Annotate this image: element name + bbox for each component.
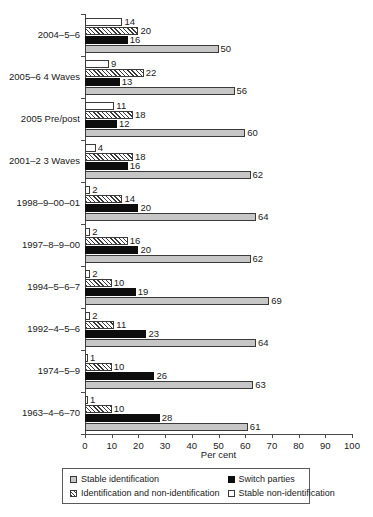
bar-group: 4181662 [85,144,352,179]
bar-value-label: 11 [114,320,126,330]
y-tick [81,350,85,351]
y-tick [81,98,85,99]
bar-value-label: 2 [90,311,97,321]
bar-row: 1 [85,396,352,404]
x-tick [352,434,353,438]
category-label: 2004–5–6 [0,29,80,40]
y-tick [81,392,85,393]
bar-value-label: 16 [128,35,141,45]
bar-row: 64 [85,339,352,347]
y-tick [81,140,85,141]
bar-row: 10 [85,405,352,413]
legend-label: Switch parties [239,474,295,484]
bar [85,339,256,347]
bar-value-label: 56 [235,86,248,96]
legend-swatch-icon [70,476,77,483]
category-label: 1992–4–5–6 [0,323,80,334]
category-label: 1998–9–00–01 [0,197,80,208]
bar-row: 62 [85,171,352,179]
bar-value-label: 64 [256,338,269,348]
bar [85,87,235,95]
bar-row: 19 [85,288,352,296]
bar [85,246,138,254]
bar-row: 50 [85,45,352,53]
x-tick [192,434,193,438]
bar-value-label: 9 [109,59,116,69]
bar-value-label: 4 [96,143,103,153]
legend-swatch-icon [70,490,77,497]
bar-group: 2101969 [85,270,352,305]
bar [85,204,138,212]
legend-label: Stable identification [81,474,159,484]
bar [85,69,144,77]
bar-row: 18 [85,153,352,161]
bar-row: 16 [85,36,352,44]
x-tick [112,434,113,438]
bar-value-label: 62 [251,254,264,264]
bar-value-label: 69 [269,296,282,306]
category-label: 1963–4–6–70 [0,407,80,418]
bar-group: 11181260 [85,102,352,137]
legend-swatch-icon [228,490,235,497]
bar [85,237,128,245]
y-tick [81,224,85,225]
bar [85,297,269,305]
bar [85,144,96,152]
bar-row: 20 [85,27,352,35]
bar-row: 13 [85,78,352,86]
bar [85,255,251,263]
bar [85,18,122,26]
bar-row: 64 [85,213,352,221]
bar-value-label: 19 [136,287,149,297]
bar-value-label: 50 [219,44,232,54]
bar [85,372,154,380]
bar-value-label: 63 [253,380,266,390]
bar-row: 20 [85,246,352,254]
bar-value-label: 23 [146,329,159,339]
bar [85,120,117,128]
bar-row: 2 [85,228,352,236]
bar-row: 26 [85,372,352,380]
bar-row: 12 [85,120,352,128]
legend-item: Stable identification [70,474,220,484]
bar [85,195,122,203]
bar-row: 63 [85,381,352,389]
bar-value-label: 14 [122,194,135,204]
bar-group: 2162062 [85,228,352,263]
y-tick [81,266,85,267]
bar-row: 56 [85,87,352,95]
legend-item: Identification and non-identification [70,488,220,498]
x-tick [325,434,326,438]
bar-value-label: 16 [128,161,141,171]
bar-value-label: 1 [88,353,95,363]
bar-row: 61 [85,423,352,431]
category-label: 2005 Pre/post [0,113,80,124]
bar-value-label: 10 [112,362,125,372]
bar-value-label: 13 [120,77,133,87]
bar-value-label: 60 [245,128,258,138]
bar-value-label: 10 [112,404,125,414]
bar [85,213,256,221]
bar-value-label: 2 [90,269,97,279]
bar-row: 14 [85,18,352,26]
bar-value-label: 22 [144,68,157,78]
bar [85,36,128,44]
category-label: 1997–8–9–00 [0,239,80,250]
category-label: 1994–5–6–7 [0,281,80,292]
bar-group: 9221356 [85,60,352,95]
bar-value-label: 20 [138,245,151,255]
bar-row: 28 [85,414,352,422]
bar-row: 11 [85,321,352,329]
bar-group: 14201650 [85,18,352,53]
x-axis-title: Per cent [85,449,352,460]
bar-value-label: 18 [133,110,146,120]
category-label: 2001–2 3 Waves [0,155,80,166]
legend-item: Stable non-identification [228,488,335,498]
x-tick [165,434,166,438]
y-tick [81,14,85,15]
bar-value-label: 14 [122,17,135,27]
bar [85,414,160,422]
x-tick [85,434,86,438]
bar [85,321,114,329]
legend-item: Switch parties [228,474,335,484]
